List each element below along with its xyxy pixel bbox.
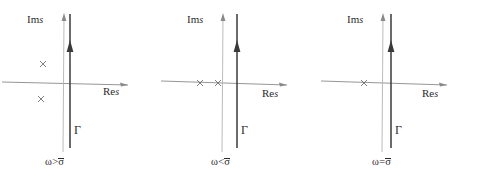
- real-axis: [161, 81, 287, 87]
- caption-sigma-bar: σ: [58, 157, 64, 168]
- im-axis-variable: s: [199, 14, 203, 25]
- panel-omega-eq-sigma: Ims Res Γ ω=σ: [319, 0, 478, 188]
- panel-omega-gt-sigma: Ims Res Γ ω>σ: [0, 0, 159, 188]
- caption-sigma-bar: σ: [385, 157, 391, 168]
- panel-1-canvas: [0, 0, 159, 188]
- re-axis-variable: s: [434, 88, 438, 99]
- real-axis: [321, 81, 447, 87]
- contour-gamma-line: [67, 14, 74, 148]
- re-axis-label: Res: [262, 88, 278, 99]
- caption-sigma-bar: σ: [224, 157, 230, 168]
- re-axis-variable: s: [115, 86, 119, 97]
- panel-3-caption: ω=σ: [372, 157, 391, 168]
- contour-gamma-label: Γ: [395, 124, 402, 136]
- panel-omega-lt-sigma: Ims Res Γ ω<σ: [159, 0, 318, 188]
- contour-direction-arrow: [67, 40, 74, 52]
- re-axis-label: Res: [422, 88, 438, 99]
- imaginary-axis: [62, 13, 67, 152]
- panel-3-canvas: [319, 0, 478, 188]
- panel-1-caption: ω>σ: [45, 157, 64, 168]
- im-axis-variable: s: [359, 14, 363, 25]
- contour-gamma-line: [388, 14, 395, 148]
- bromwich-contour-figure: Ims Res Γ ω>σ: [0, 0, 478, 188]
- pole-upper-left: [40, 61, 46, 67]
- pole-lower-left: [38, 96, 44, 102]
- im-axis-variable: s: [39, 14, 43, 25]
- panel-2-canvas: [159, 0, 318, 188]
- re-axis-label: Res: [103, 86, 119, 97]
- contour-gamma-label: Γ: [74, 124, 81, 136]
- pole-real-double: [361, 80, 367, 86]
- im-axis-label: Ims: [347, 14, 363, 25]
- contour-gamma-line: [234, 14, 241, 148]
- panel-2-caption: ω<σ: [211, 157, 230, 168]
- contour-direction-arrow: [234, 40, 241, 52]
- contour-direction-arrow: [388, 40, 395, 52]
- im-axis-label: Ims: [187, 14, 203, 25]
- pole-real-outer: [197, 80, 203, 86]
- re-axis-variable: s: [274, 88, 278, 99]
- im-axis-label: Ims: [27, 14, 43, 25]
- contour-gamma-label: Γ: [241, 124, 248, 136]
